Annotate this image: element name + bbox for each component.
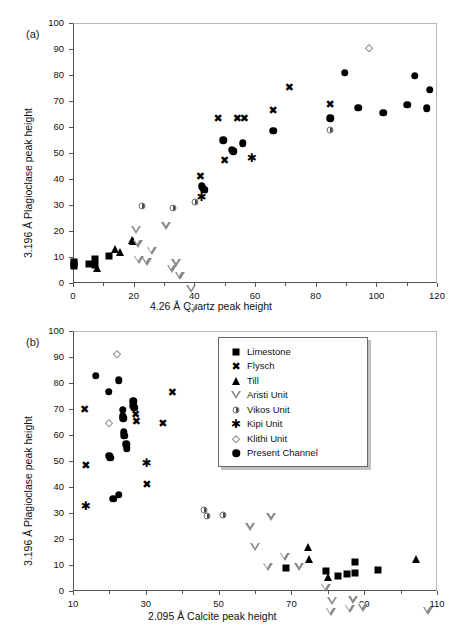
- y-axis-tick: [69, 565, 73, 566]
- marker-open-diamond-icon: [232, 435, 240, 443]
- legend-item-klithi-unit: Klithi Unit: [225, 431, 359, 446]
- marker-open-triangle-down-icon: [358, 604, 368, 612]
- marker-open-triangle-down-icon: [161, 222, 171, 230]
- marker-filled-circle: [404, 101, 412, 109]
- x-axis-tick-label: 30: [126, 598, 166, 609]
- marker-open-triangle-down-icon: [250, 543, 260, 551]
- marker-open-triangle-down-icon: [321, 584, 331, 592]
- y-axis-tick: [69, 357, 73, 358]
- panel-b-x-axis-title: 2.095 Å Calcite peak height: [148, 610, 276, 622]
- marker-filled-circle: [121, 432, 129, 440]
- marker-asterisk-icon: ✱: [141, 457, 151, 469]
- marker-filled-square: [352, 569, 359, 576]
- y-axis-tick-label: 50: [31, 147, 64, 158]
- x-axis-tick-label: 60: [235, 290, 275, 301]
- marker-asterisk-icon: ✱: [247, 152, 257, 164]
- legend-item-kipi-unit: ✱Kipi Unit: [225, 417, 359, 432]
- y-axis-tick-label: 40: [31, 481, 64, 492]
- x-axis-tick-label: 10: [53, 598, 93, 609]
- marker-filled-circle: [107, 454, 115, 462]
- legend-marker-key: [225, 402, 247, 417]
- x-axis-tick-label: 100: [356, 290, 396, 301]
- marker-bold-x-icon: ✖: [80, 404, 89, 415]
- y-axis-tick-label: 50: [31, 455, 64, 466]
- marker-bold-x-icon: ✖: [168, 386, 177, 397]
- y-axis-tick: [69, 409, 73, 410]
- marker-filled-circle: [354, 104, 362, 112]
- x-axis-tick: [146, 591, 147, 595]
- marker-half-filled-circle-icon: [327, 127, 334, 134]
- marker-open-triangle-down-icon: [266, 513, 276, 521]
- x-axis-tick: [316, 283, 317, 287]
- y-axis-tick-label: 40: [31, 173, 64, 184]
- marker-open-triangle-down-icon: [131, 226, 141, 234]
- legend-marker-key: [225, 344, 247, 359]
- legend-item-aristi-unit: Aristi Unit: [225, 388, 359, 403]
- figure-root: (a) 3.196 Å Plagioclase peak height 4.26…: [0, 0, 463, 640]
- marker-filled-triangle-icon: [324, 573, 332, 581]
- panel-a: (a) 3.196 Å Plagioclase peak height 4.26…: [0, 0, 463, 320]
- marker-filled-circle: [411, 72, 419, 80]
- marker-filled-triangle-icon: [232, 377, 240, 385]
- marker-filled-square: [282, 565, 289, 572]
- marker-filled-circle: [423, 105, 431, 113]
- marker-filled-square: [344, 571, 351, 578]
- legend: Limestone✖FlyschTillAristi UnitVikos Uni…: [218, 337, 368, 467]
- marker-filled-triangle-icon: [304, 543, 312, 551]
- marker-filled-circle: [119, 414, 127, 422]
- x-axis-tick-label: 120: [417, 290, 457, 301]
- y-axis-tick: [69, 179, 73, 180]
- y-axis-tick: [69, 435, 73, 436]
- marker-filled-circle: [239, 139, 247, 147]
- marker-open-triangle-down-icon: [147, 247, 157, 255]
- marker-open-triangle-down-icon: [133, 240, 143, 248]
- marker-filled-circle: [379, 109, 387, 117]
- y-axis-tick: [69, 101, 73, 102]
- marker-open-triangle-down-icon: [345, 605, 355, 613]
- marker-open-triangle-down-icon: [294, 563, 304, 571]
- marker-open-triangle-down-icon: [280, 553, 290, 561]
- legend-marker-key: [225, 388, 247, 403]
- y-axis-tick-label: 10: [31, 251, 64, 262]
- marker-filled-circle: [115, 491, 123, 499]
- marker-filled-circle: [326, 115, 334, 123]
- x-axis-tick: [364, 591, 365, 595]
- y-axis-tick: [69, 205, 73, 206]
- y-axis-tick-label: 70: [31, 95, 64, 106]
- x-axis-minor-tick: [401, 591, 402, 594]
- x-axis-minor-tick: [346, 283, 347, 286]
- y-axis-tick: [69, 331, 73, 332]
- legend-marker-key: ✖: [225, 359, 247, 374]
- x-axis-tick: [437, 283, 438, 287]
- marker-bold-x-icon: ✖: [81, 459, 90, 470]
- marker-filled-circle: [220, 136, 228, 144]
- y-axis-tick-label: 20: [31, 533, 64, 544]
- y-axis-tick: [69, 49, 73, 50]
- panel-b-tag: (b): [26, 336, 39, 348]
- y-axis-tick-label: 30: [31, 199, 64, 210]
- x-axis-minor-tick: [103, 283, 104, 286]
- marker-filled-circle: [426, 86, 434, 94]
- y-axis-tick-label: 60: [31, 121, 64, 132]
- y-axis-tick: [69, 23, 73, 24]
- legend-item-label: Klithi Unit: [247, 433, 287, 444]
- x-axis-minor-tick: [164, 283, 165, 286]
- marker-half-filled-circle-icon: [233, 406, 240, 413]
- y-axis-tick: [69, 487, 73, 488]
- marker-filled-circle: [341, 69, 349, 77]
- x-axis-minor-tick: [182, 591, 183, 594]
- marker-filled-triangle-icon: [116, 248, 124, 256]
- y-axis-tick-label: 100: [31, 325, 64, 336]
- marker-bold-x-icon: ✖: [132, 416, 141, 427]
- x-axis-tick: [291, 591, 292, 595]
- legend-marker-key: [225, 446, 247, 461]
- x-axis-tick: [134, 283, 135, 287]
- marker-bold-x-icon: ✖: [269, 105, 278, 116]
- marker-filled-circle: [105, 388, 113, 396]
- y-axis-tick-label: 90: [31, 351, 64, 362]
- marker-asterisk-icon: ✱: [231, 418, 241, 430]
- x-axis-tick-label: 80: [296, 290, 336, 301]
- marker-filled-square: [106, 253, 113, 260]
- marker-filled-circle: [200, 186, 208, 194]
- marker-bold-x-icon: ✖: [240, 113, 249, 124]
